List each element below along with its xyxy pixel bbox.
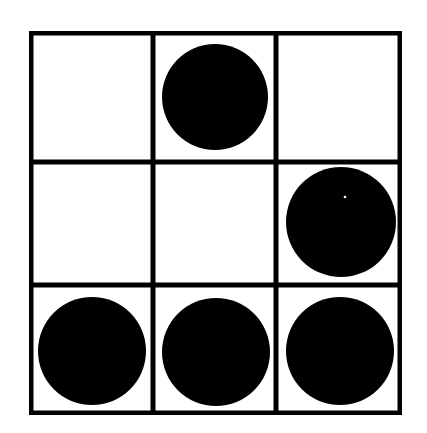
speck-dot-icon <box>344 196 347 199</box>
circle-r1-c2 <box>286 167 396 277</box>
cell-r0-c0 <box>31 33 153 162</box>
cell-r1-c0 <box>31 164 153 285</box>
circle-r2-c0 <box>38 297 146 405</box>
circle-grid-figure <box>29 31 402 415</box>
cell-r1-c1 <box>155 164 276 285</box>
image-canvas <box>0 0 427 433</box>
cell-r0-c2 <box>278 33 400 162</box>
circle-r2-c1 <box>162 298 270 406</box>
circle-r0-c1 <box>162 44 268 150</box>
grid-svg <box>29 31 402 415</box>
circle-r2-c2 <box>286 297 394 405</box>
